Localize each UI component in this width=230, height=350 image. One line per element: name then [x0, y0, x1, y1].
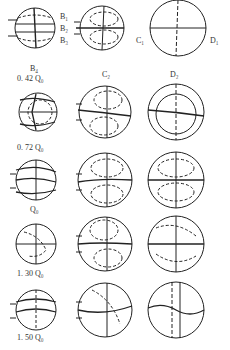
flow-label-row-3: Q₀	[30, 205, 39, 214]
row-3-b-circle	[10, 160, 56, 200]
row-2-c-circle	[76, 86, 131, 138]
flow-label-row-4: 1. 30 Q₀	[17, 269, 44, 278]
row-5-d-circle	[148, 282, 204, 338]
flow-label-row-2: 0. 72 Q₀	[17, 143, 44, 152]
row-1-b-circle	[8, 8, 55, 48]
label-b3: B₃	[60, 36, 68, 45]
row-3-c-circle	[76, 153, 132, 207]
row-5-b-circle	[10, 290, 56, 330]
flow-label-row-5: 1. 50 Q₀	[17, 333, 44, 342]
flow-pattern-diagram	[0, 0, 230, 350]
row-1-c-circle	[74, 6, 124, 50]
label-b1: B₁	[60, 12, 68, 21]
flow-label-row-1: 0. 42 Q₀	[17, 74, 44, 83]
row-3-d-circle	[148, 152, 204, 208]
label-b4: B₄	[30, 64, 38, 73]
row-5-c-circle	[76, 283, 132, 337]
row-2-b-circle	[19, 93, 57, 131]
label-c1: C₁	[136, 36, 144, 45]
label-c2: C₂	[102, 70, 110, 79]
label-d2: D₂	[170, 70, 179, 79]
row-2-d-circle	[148, 84, 204, 140]
label-b2: B₂	[60, 24, 68, 33]
row-1-d-circle	[150, 0, 206, 56]
row-4-d-circle	[148, 216, 204, 272]
row-4-c-circle	[76, 217, 132, 271]
label-d1: D₁	[210, 36, 219, 45]
row-4-b-circle	[16, 224, 56, 264]
